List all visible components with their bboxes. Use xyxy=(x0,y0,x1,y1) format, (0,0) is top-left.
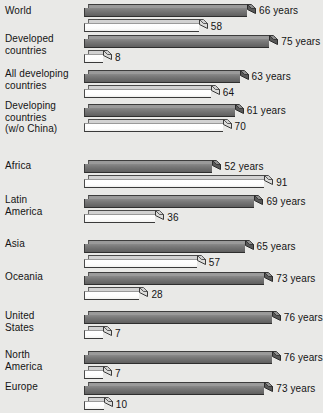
bar-front-face xyxy=(84,123,223,132)
value-label-infant-mortality: 64 xyxy=(223,87,234,98)
bar-end-cap xyxy=(197,255,206,268)
bar-life-expectancy xyxy=(84,160,221,176)
bar-infant-mortality xyxy=(84,119,232,135)
category-label: Oceania xyxy=(5,271,83,283)
value-label-infant-mortality: 91 xyxy=(276,177,287,188)
value-label-life-expectancy: 73 years xyxy=(276,383,315,394)
value-label-life-expectancy: 76 years xyxy=(284,312,323,323)
bar-front-face xyxy=(84,179,264,188)
bar-infant-mortality xyxy=(84,85,220,101)
bar-life-expectancy xyxy=(84,104,244,120)
bar-life-expectancy xyxy=(84,382,273,398)
bar-infant-mortality xyxy=(84,175,273,191)
bar-life-expectancy xyxy=(84,35,278,51)
value-label-infant-mortality: 70 xyxy=(235,121,246,132)
bar-end-cap xyxy=(235,104,244,117)
bar-infant-mortality xyxy=(84,19,208,35)
bar-end-cap xyxy=(103,50,112,63)
bar-front-face xyxy=(84,244,245,253)
category-label: Developing countries (w/o China) xyxy=(5,100,83,135)
bar-end-cap xyxy=(247,4,256,17)
category-label: Latin America xyxy=(5,194,83,217)
bar-front-face xyxy=(84,315,272,324)
bar-infant-mortality xyxy=(84,210,164,226)
bar-end-cap xyxy=(264,272,273,285)
bar-end-cap xyxy=(139,287,148,300)
bar-front-face xyxy=(84,291,139,300)
value-label-life-expectancy: 61 years xyxy=(247,105,286,116)
bar-life-expectancy xyxy=(84,311,281,327)
bar-infant-mortality xyxy=(84,397,113,413)
value-label-infant-mortality: 8 xyxy=(115,52,121,63)
bar-end-cap xyxy=(104,397,113,410)
bar-front-face xyxy=(84,276,264,285)
category-label: Asia xyxy=(5,238,83,250)
bar-end-cap xyxy=(103,366,112,379)
value-label-infant-mortality: 57 xyxy=(209,257,220,268)
category-label: All developing countries xyxy=(5,68,83,91)
bar-end-cap xyxy=(103,326,112,339)
category-label: United States xyxy=(5,310,83,333)
bar-end-cap xyxy=(254,195,263,208)
bar-front-face xyxy=(84,214,155,223)
bar-front-face xyxy=(84,370,103,379)
bar-life-expectancy xyxy=(84,4,256,20)
bar-front-face xyxy=(84,259,197,268)
category-label: Developed countries xyxy=(5,33,83,56)
category-label: Africa xyxy=(5,160,83,172)
bar-infant-mortality xyxy=(84,287,148,303)
value-label-infant-mortality: 58 xyxy=(211,21,222,32)
bar-front-face xyxy=(84,330,103,339)
value-label-life-expectancy: 66 years xyxy=(259,5,298,16)
bar-front-face xyxy=(84,386,264,395)
bar-end-cap xyxy=(245,240,254,253)
bar-front-face xyxy=(84,164,212,173)
bar-life-expectancy xyxy=(84,351,281,367)
bar-end-cap xyxy=(272,311,281,324)
value-label-life-expectancy: 75 years xyxy=(281,36,320,47)
value-label-life-expectancy: 65 years xyxy=(257,241,296,252)
value-label-life-expectancy: 69 years xyxy=(266,196,305,207)
value-label-life-expectancy: 52 years xyxy=(224,161,263,172)
value-label-infant-mortality: 7 xyxy=(115,328,121,339)
bar-front-face xyxy=(84,39,269,48)
value-label-infant-mortality: 10 xyxy=(116,399,127,410)
bar-infant-mortality xyxy=(84,50,112,66)
bar-front-face xyxy=(84,89,211,98)
bar-front-face xyxy=(84,23,199,32)
bar-end-cap xyxy=(223,119,232,132)
bar-infant-mortality xyxy=(84,326,112,342)
category-label: World xyxy=(5,5,83,17)
value-label-infant-mortality: 28 xyxy=(151,289,162,300)
bar-front-face xyxy=(84,108,235,117)
bar-front-face xyxy=(84,199,254,208)
bar-end-cap xyxy=(211,85,220,98)
bar-end-cap xyxy=(155,210,164,223)
category-label: Europe xyxy=(5,381,83,393)
bar-end-cap xyxy=(264,382,273,395)
bar-end-cap xyxy=(199,19,208,32)
bar-end-cap xyxy=(269,35,278,48)
category-label: North America xyxy=(5,349,83,372)
bar-infant-mortality xyxy=(84,366,112,382)
bar-infant-mortality xyxy=(84,255,206,271)
bar-life-expectancy xyxy=(84,272,273,288)
bar-life-expectancy xyxy=(84,195,263,211)
bar-front-face xyxy=(84,355,272,364)
bar-life-expectancy xyxy=(84,70,249,86)
bar-end-cap xyxy=(272,351,281,364)
bar-end-cap xyxy=(264,175,273,188)
value-label-life-expectancy: 76 years xyxy=(284,352,323,363)
value-label-infant-mortality: 36 xyxy=(167,212,178,223)
bar-front-face xyxy=(84,401,104,410)
value-label-infant-mortality: 7 xyxy=(115,368,121,379)
value-label-life-expectancy: 63 years xyxy=(252,71,291,82)
bar-front-face xyxy=(84,54,103,63)
bar-front-face xyxy=(84,74,240,83)
bar-end-cap xyxy=(212,160,221,173)
bar-end-cap xyxy=(240,70,249,83)
value-label-life-expectancy: 73 years xyxy=(276,273,315,284)
bar-life-expectancy xyxy=(84,240,254,256)
bar-front-face xyxy=(84,8,247,17)
